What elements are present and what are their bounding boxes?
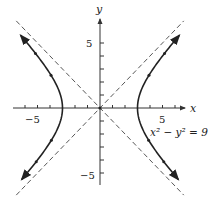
- x-axis-label: x: [190, 102, 197, 115]
- hyperbola-branch: [138, 35, 180, 108]
- direction-marker: [34, 52, 37, 55]
- direction-marker: [147, 139, 150, 142]
- direction-marker: [162, 160, 165, 163]
- x-tick-label-5: 5: [159, 114, 165, 125]
- y-axis-label: y: [95, 3, 103, 16]
- direction-marker: [163, 52, 166, 55]
- origin-point: [98, 106, 101, 109]
- hyperbola-branch: [21, 35, 63, 108]
- direction-marker: [50, 139, 53, 142]
- hyperbola-plot: x y −5 5 5 −5 x² − y² = 9: [0, 0, 224, 203]
- direction-marker: [50, 74, 53, 77]
- y-tick-label-neg5: −5: [80, 170, 95, 181]
- equation-label: x² − y² = 9: [150, 126, 208, 138]
- y-tick-label-5: 5: [86, 38, 92, 49]
- x-tick-label-neg5: −5: [25, 114, 40, 125]
- direction-marker: [147, 74, 150, 77]
- direction-marker: [35, 160, 38, 163]
